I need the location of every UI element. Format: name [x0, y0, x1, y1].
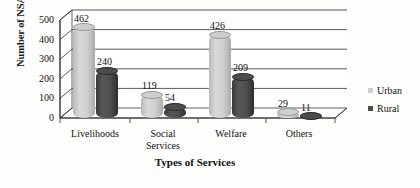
x-axis-title: Types of Services [45, 156, 345, 168]
data-label-rural-social-services: 54 [165, 93, 175, 103]
data-label-urban-others: 29 [278, 99, 288, 109]
legend-item-rural: Rural [368, 103, 399, 114]
y-tick-label-400: 400 [28, 35, 54, 45]
data-label-urban-social-services: 119 [142, 81, 157, 91]
x-tick-label-welfare: Welfare [196, 128, 266, 140]
legend-label-rural: Rural [377, 103, 399, 114]
bar-cap [300, 112, 322, 120]
bar-cap [96, 67, 118, 75]
bar-body [232, 77, 254, 118]
data-label-urban-livelihoods: 462 [74, 14, 89, 24]
data-label-urban-welfare: 426 [210, 21, 225, 31]
legend-swatch-urban-icon [368, 88, 373, 93]
bar-rural-social-services [164, 107, 186, 118]
plot-area: 500 400 300 200 100 0 462 240 119 54 [0, 0, 420, 188]
bar-urban-social-services [141, 95, 163, 118]
bar-rural-others [300, 116, 322, 118]
bar-cap [141, 91, 163, 99]
y-tick-label-100: 100 [28, 93, 54, 103]
bar-body [209, 35, 231, 119]
bar-urban-livelihoods [73, 27, 95, 118]
data-label-rural-livelihoods: 240 [97, 57, 112, 67]
x-tick-label-livelihoods: Livelihoods [55, 128, 135, 140]
bar-urban-welfare [209, 35, 231, 119]
y-tick-label-0: 0 [28, 113, 54, 123]
x-tick-label-others: Others [264, 128, 334, 140]
legend-item-urban: Urban [368, 85, 402, 96]
x-tick-label-social-services: Social Services [128, 128, 198, 151]
y-tick-label-500: 500 [28, 15, 54, 25]
bar-urban-others [277, 112, 299, 118]
bar-body [96, 71, 118, 118]
bar-cap [209, 31, 231, 39]
data-label-rural-others: 11 [301, 103, 311, 113]
bar-body [73, 27, 95, 118]
chart-container: Number of NSAs [0, 0, 420, 188]
data-label-rural-welfare: 209 [233, 63, 248, 73]
legend-label-urban: Urban [377, 85, 402, 96]
y-tick-label-300: 300 [28, 54, 54, 64]
y-tick-label-200: 200 [28, 74, 54, 84]
bar-rural-livelihoods [96, 71, 118, 118]
bar-cap [232, 73, 254, 81]
bar-rural-welfare [232, 77, 254, 118]
legend-swatch-rural-icon [368, 106, 373, 111]
